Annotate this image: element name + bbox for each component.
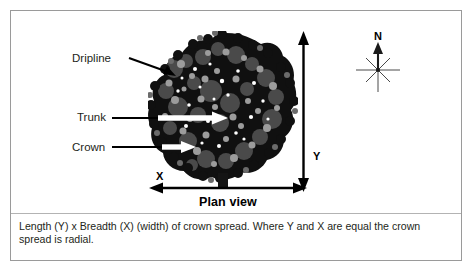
trunk-label: Trunk <box>77 111 106 124</box>
figure-caption: Length (Y) x Breadth (X) (width) of crow… <box>19 220 451 247</box>
y-axis-label: Y <box>313 150 320 162</box>
x-axis-label: X <box>156 170 163 182</box>
compass-rose: N <box>352 30 404 92</box>
plan-view-title: Plan view <box>152 195 304 209</box>
double-headed-vertical-arrow-icon <box>298 31 309 192</box>
caption-divider <box>11 213 461 214</box>
figure-page: Dripline Trunk Crown X Y Plan view N <box>0 0 474 272</box>
dripline-label: Dripline <box>72 52 111 65</box>
crown-label: Crown <box>72 141 105 154</box>
north-label: N <box>352 30 404 42</box>
tree-canopy-plan-view-icon <box>148 31 298 189</box>
diagram-stage: Dripline Trunk Crown X Y Plan view N <box>0 0 474 214</box>
